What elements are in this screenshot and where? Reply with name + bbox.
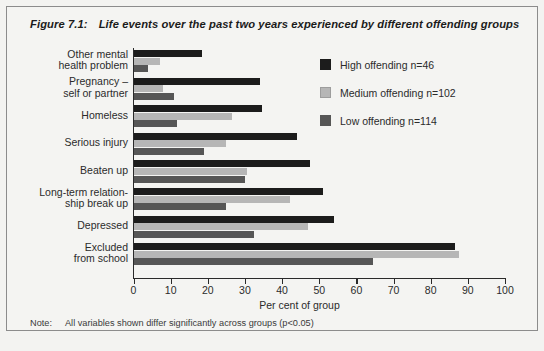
figure-container: Figure 7.1:Life events over the past two…	[0, 0, 544, 351]
category-label: Excludedfrom school	[0, 242, 128, 265]
x-axis-tick-label: 50	[313, 284, 325, 296]
x-axis-tick-label: 30	[239, 284, 251, 296]
page-title: Figure 7.1:Life events over the past two…	[30, 18, 519, 30]
category-label-line: from school	[0, 253, 128, 265]
x-axis-tick-label: 10	[165, 284, 177, 296]
legend-swatch-low	[320, 115, 331, 126]
legend-label-medium: Medium offending n=102	[340, 87, 456, 99]
x-axis-tick-label: 40	[276, 284, 288, 296]
bar-high	[134, 105, 262, 112]
legend-item-low: Low offending n=114	[320, 110, 456, 131]
bar-low	[134, 176, 245, 183]
note-text: All variables shown differ significantly…	[65, 318, 314, 328]
bar-high	[134, 160, 310, 167]
bar-low	[134, 120, 177, 127]
x-axis-tick-label: 100	[496, 284, 514, 296]
category-label: Long-term relation-ship break up	[0, 187, 128, 210]
bar-medium	[134, 140, 227, 147]
category-label-line: Beaten up	[0, 165, 128, 177]
bar-high	[134, 216, 335, 223]
bar-high	[134, 133, 297, 140]
figure-note: Note:All variables shown differ signific…	[30, 318, 314, 328]
bar-medium	[134, 251, 459, 258]
category-label-line: self or partner	[0, 88, 128, 100]
x-axis-tick-label: 60	[351, 284, 363, 296]
x-axis-tick-label: 90	[462, 284, 474, 296]
bar-medium	[134, 58, 160, 65]
category-label-line: Serious injury	[0, 137, 128, 149]
bar-high	[134, 188, 323, 195]
x-axis-tick-label: 20	[202, 284, 214, 296]
bar-low	[134, 148, 205, 155]
figure-number: Figure 7.1:	[30, 18, 88, 30]
chart-legend: High offending n=46Medium offending n=10…	[320, 54, 456, 138]
category-label: Homeless	[0, 110, 128, 122]
bar-medium	[134, 113, 232, 120]
category-label: Other mentalhealth problem	[0, 49, 128, 72]
legend-item-medium: Medium offending n=102	[320, 82, 456, 103]
bar-low	[134, 258, 374, 265]
bar-medium	[134, 168, 247, 175]
x-axis-label: Per cent of group	[0, 299, 544, 311]
bar-medium	[134, 85, 164, 92]
figure-title-text: Life events over the past two years expe…	[99, 18, 520, 30]
category-label: Depressed	[0, 220, 128, 232]
category-label-line: health problem	[0, 60, 128, 72]
category-label: Pregnancy –self or partner	[0, 76, 128, 99]
category-label: Serious injury	[0, 137, 128, 149]
legend-item-high: High offending n=46	[320, 54, 456, 75]
bar-high	[134, 243, 455, 250]
x-axis-tick-label: 80	[425, 284, 437, 296]
bar-low	[134, 65, 149, 72]
bar-low	[134, 203, 227, 210]
bar-medium	[134, 196, 290, 203]
category-label: Beaten up	[0, 165, 128, 177]
x-axis-label-text: Per cent of group	[204, 299, 340, 311]
bar-low	[134, 231, 255, 238]
category-label-line: Pregnancy –	[0, 76, 128, 88]
bar-low	[134, 93, 175, 100]
x-axis-tick-label: 0	[131, 284, 137, 296]
bar-medium	[134, 223, 309, 230]
bar-high	[134, 78, 260, 85]
legend-label-low: Low offending n=114	[340, 115, 437, 127]
category-label-line: Depressed	[0, 220, 128, 232]
legend-label-high: High offending n=46	[340, 59, 434, 71]
category-label-line: Homeless	[0, 110, 128, 122]
category-label-line: ship break up	[0, 198, 128, 210]
legend-swatch-high	[320, 59, 331, 70]
bar-high	[134, 50, 203, 57]
x-axis-tick-label: 70	[388, 284, 400, 296]
legend-swatch-medium	[320, 87, 331, 98]
note-label: Note:	[30, 318, 52, 328]
